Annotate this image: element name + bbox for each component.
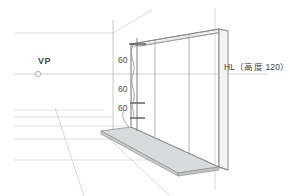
upper-construction-lines <box>14 10 152 33</box>
dimension-label-top: 60 <box>118 56 127 65</box>
dimension-label-middle: 60 <box>118 85 127 94</box>
wall-right-end-panel <box>219 29 228 170</box>
vanishing-point-label: VP <box>38 57 51 66</box>
horizon-line-label: HL（高度 120） <box>224 63 289 72</box>
perspective-construction-svg <box>0 0 290 196</box>
perspective-ray-left <box>55 108 84 196</box>
upper-diagonal-line <box>113 10 152 33</box>
wall-top-inner-rail <box>131 33 219 47</box>
dimension-label-bottom: 60 <box>118 104 127 113</box>
vanishing-point-marker <box>35 71 40 76</box>
floor-slab <box>101 127 219 176</box>
perspective-drawing-canvas: VP 60 60 60 HL（高度 120） <box>0 0 290 196</box>
brace-curve-lower <box>132 104 134 118</box>
